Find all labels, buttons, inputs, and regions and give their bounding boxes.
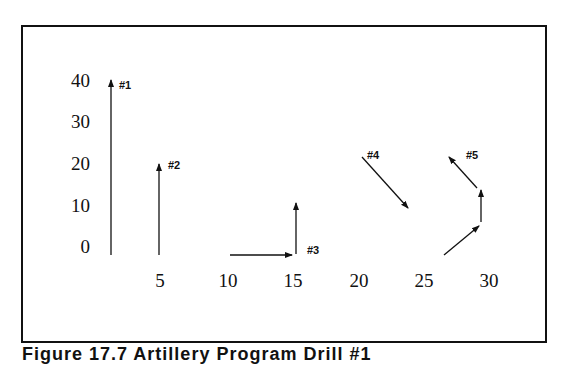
vector-label-4: #4 <box>367 149 379 161</box>
vector-label-1: #1 <box>119 79 131 91</box>
vector-label-3: #3 <box>307 244 319 256</box>
vector-4-arrow <box>362 157 408 208</box>
vector-label-5: #5 <box>466 149 478 161</box>
figure-caption: Figure 17.7 Artillery Program Drill #1 <box>22 344 371 365</box>
vector-5-arrow-c <box>449 157 477 188</box>
vector-5-arrow-a <box>444 226 479 255</box>
vector-label-2: #2 <box>168 159 180 171</box>
